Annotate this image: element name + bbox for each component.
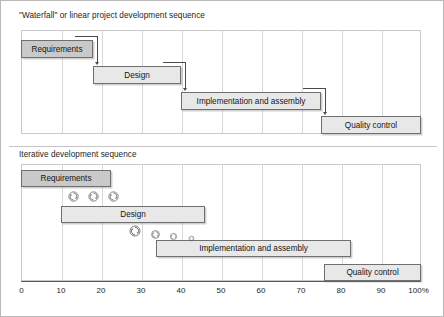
x-axis-tick-label: 0 xyxy=(19,286,23,295)
gridline xyxy=(302,31,303,133)
iteration-cycle-icon xyxy=(67,189,80,207)
cycle-arrows-icon xyxy=(188,235,195,242)
phase-bar: Quality control xyxy=(324,264,421,281)
gridline xyxy=(262,31,263,133)
phase-bar: Quality control xyxy=(321,116,421,134)
phase-bar-label: Quality control xyxy=(345,121,397,130)
gridline xyxy=(382,165,383,280)
phase-bar: Design xyxy=(61,206,205,223)
gridline xyxy=(302,165,303,280)
gridline xyxy=(222,31,223,133)
x-axis-tick-label: 50 xyxy=(217,286,226,295)
phase-bar-label: Design xyxy=(120,210,146,219)
cycle-arrows-icon xyxy=(87,190,100,203)
phase-bar-label: Requirements xyxy=(32,45,83,54)
cycle-arrows-icon xyxy=(150,229,161,240)
iteration-cycle-icon xyxy=(169,227,178,245)
phase-bar: Design xyxy=(93,66,181,84)
cycle-arrows-icon xyxy=(128,224,142,238)
x-axis-line xyxy=(21,281,421,282)
gridline xyxy=(182,31,183,133)
gridline xyxy=(222,165,223,280)
x-axis-tick-label: 20 xyxy=(97,286,106,295)
cycle-arrows-icon xyxy=(67,190,80,203)
iteration-cycle-icon xyxy=(128,224,142,242)
x-axis-tick-label: 30 xyxy=(137,286,146,295)
panel-title-iterative: Iterative development sequence xyxy=(19,150,137,159)
x-axis-tick-label: 80 xyxy=(337,286,346,295)
phase-bar: Implementation and assembly xyxy=(181,92,321,110)
gridline xyxy=(342,165,343,280)
cycle-arrows-icon xyxy=(107,190,120,203)
x-axis-tick-label: 70 xyxy=(297,286,306,295)
x-axis-tick-label: 60 xyxy=(257,286,266,295)
panel-title-waterfall: "Waterfall" or linear project developmen… xyxy=(19,11,205,20)
x-axis-tick-label: 10 xyxy=(57,286,66,295)
phase-bar-label: Implementation and assembly xyxy=(197,97,306,106)
phase-bar: Requirements xyxy=(21,40,93,58)
iteration-cycle-icon xyxy=(150,226,161,244)
phase-bar-label: Requirements xyxy=(41,174,92,183)
phase-bar: Implementation and assembly xyxy=(156,240,351,257)
x-axis-tick-label: 100% xyxy=(408,286,428,295)
iteration-cycle-icon xyxy=(87,189,100,207)
iteration-cycle-icon xyxy=(107,189,120,207)
phase-bar-label: Quality control xyxy=(346,268,398,277)
iteration-cycle-icon xyxy=(188,228,195,246)
x-axis-tick-label: 90 xyxy=(377,286,386,295)
x-axis-tick-label: 40 xyxy=(177,286,186,295)
phase-bar-label: Design xyxy=(124,71,150,80)
phase-bar-label: Implementation and assembly xyxy=(199,244,308,253)
cycle-arrows-icon xyxy=(169,232,178,241)
phase-bar: Requirements xyxy=(21,170,111,187)
diagram-figure: "Waterfall" or linear project developmen… xyxy=(0,0,444,317)
gridline xyxy=(262,165,263,280)
